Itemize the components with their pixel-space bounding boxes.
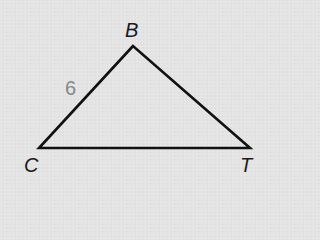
vertex-label-b: B [125,20,138,40]
triangle-diagram [0,0,277,185]
vertex-label-t: T [240,155,252,175]
side-label-cb: 6 [65,78,76,98]
vertex-label-c: C [24,155,38,175]
